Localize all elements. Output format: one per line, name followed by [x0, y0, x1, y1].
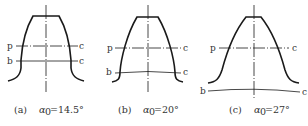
caption-prefix: (a) — [14, 104, 27, 115]
caption-b: (b) α 0 =20° — [118, 104, 179, 117]
caption-prefix: (c) — [229, 104, 242, 115]
caption-prefix: (b) — [118, 104, 132, 115]
panel-a: p b c c — [7, 5, 84, 92]
label-c-base: c — [183, 67, 188, 77]
caption-value: =27° — [265, 104, 290, 115]
label-b: b — [7, 56, 13, 66]
gear-tooth-figure: p b c c p b c c p b c c (a) α 0 =14.5° (… — [0, 0, 308, 126]
caption-value: =14.5° — [50, 104, 84, 115]
label-c-pitch: c — [79, 41, 84, 51]
label-c-pitch: c — [183, 43, 188, 53]
label-c-base: c — [79, 56, 84, 66]
panel-c: p b c c — [200, 5, 307, 100]
tooth-profile — [208, 17, 299, 83]
caption-c: (c) α 0 =27° — [229, 104, 290, 117]
label-b: b — [106, 67, 112, 77]
label-p: p — [210, 43, 216, 53]
label-b: b — [200, 86, 206, 96]
label-c-pitch: c — [292, 43, 297, 53]
panel-b: p b c c — [106, 5, 188, 92]
label-p: p — [107, 43, 113, 53]
label-p: p — [7, 41, 13, 51]
caption-a: (a) α 0 =14.5° — [14, 104, 84, 117]
caption-value: =20° — [154, 104, 179, 115]
label-c-base: c — [302, 87, 307, 97]
